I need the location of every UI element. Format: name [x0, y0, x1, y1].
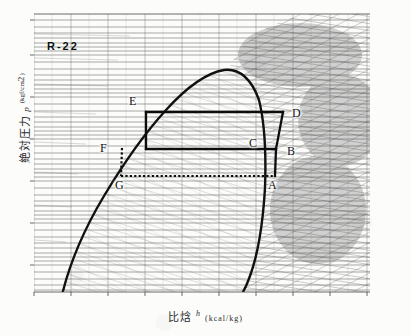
y-axis-symbol: p: [21, 106, 31, 112]
ph-diagram-figure: R-22 A B C D E F G 絶対圧力p(kgf/cm2) 比焓h(kc…: [0, 0, 411, 336]
state-point-g-label: G: [115, 178, 124, 193]
state-point-a-label: A: [268, 178, 277, 193]
state-point-b-label: B: [287, 144, 295, 159]
state-point-d-label: D: [292, 106, 301, 121]
state-point-e-label: E: [129, 94, 136, 109]
x-axis-title: 比焓h(kcal/kg): [0, 308, 411, 324]
y-axis-unit-suffix: ): [18, 73, 26, 75]
y-axis-unit-exponent: 2: [16, 76, 26, 82]
y-axis-name: 絶対圧力: [19, 115, 31, 163]
y-axis-unit-prefix: (kgf/cm: [18, 81, 26, 103]
state-point-f-label: F: [100, 141, 107, 156]
x-axis-symbol: h: [196, 309, 201, 318]
x-axis-name: 比焓: [168, 311, 192, 323]
x-axis-unit: (kcal/kg): [205, 314, 243, 323]
y-axis-title: 絶対圧力p(kgf/cm2): [16, 58, 32, 178]
state-point-c-label: C: [249, 136, 257, 151]
refrigerant-label: R-22: [47, 40, 79, 52]
cycle-segment-A-B: [275, 149, 276, 176]
cycle-segment-F-G: [121, 148, 122, 176]
